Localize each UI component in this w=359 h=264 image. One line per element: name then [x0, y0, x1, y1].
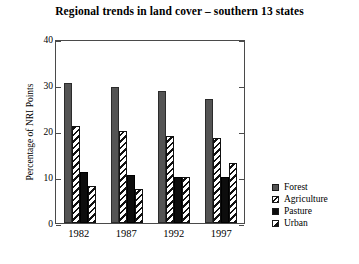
x-tick-label-1997: 1997 — [198, 228, 246, 239]
bar-group-1982 — [56, 41, 103, 223]
legend-swatch-urban-icon — [272, 220, 279, 227]
y-tick-label-30: 30 — [27, 81, 53, 91]
bar-urban-1987 — [135, 189, 143, 224]
bar-pasture-1987 — [127, 175, 135, 223]
y-tick-label-10: 10 — [27, 173, 53, 183]
legend-item-pasture: Pasture — [272, 207, 328, 217]
bar-forest-1982 — [64, 83, 72, 223]
bar-pasture-1982 — [80, 172, 88, 223]
y-tick-label-40: 40 — [27, 35, 53, 45]
y-axis-tick-labels: 010203040 — [27, 40, 53, 224]
bar-urban-1997 — [229, 163, 237, 223]
legend-item-urban: Urban — [272, 219, 328, 229]
x-tick-label-1992: 1992 — [150, 228, 198, 239]
bar-urban-1982 — [88, 186, 96, 223]
bar-forest-1987 — [111, 87, 119, 223]
bar-forest-1997 — [205, 99, 213, 223]
y-tick-label-0: 0 — [27, 219, 53, 229]
chart-title: Regional trends in land cover – southern… — [0, 5, 359, 17]
bar-groups — [56, 41, 244, 223]
bar-pasture-1992 — [174, 177, 182, 223]
bar-urban-1992 — [182, 177, 190, 223]
legend-swatch-forest-icon — [272, 184, 279, 191]
legend-label-pasture: Pasture — [284, 207, 312, 217]
y-axis-title-holder: Percentage of NRI Points — [8, 40, 26, 224]
bar-group-1987 — [103, 41, 150, 223]
bar-agriculture-1987 — [119, 131, 127, 223]
legend-label-agriculture: Agriculture — [284, 195, 328, 205]
legend-item-agriculture: Agriculture — [272, 195, 328, 205]
y-tick-0 — [56, 225, 61, 226]
plot-area — [55, 40, 245, 224]
legend-swatch-pasture-icon — [272, 208, 279, 215]
y-tick-label-20: 20 — [27, 127, 53, 137]
legend-item-forest: Forest — [272, 183, 328, 193]
bar-group-1992 — [150, 41, 197, 223]
x-axis-tick-labels: 1982198719921997 — [55, 228, 245, 239]
bar-group-1997 — [197, 41, 244, 223]
chart-container: Regional trends in land cover – southern… — [0, 0, 359, 264]
x-tick-label-1982: 1982 — [55, 228, 103, 239]
bar-agriculture-1992 — [166, 136, 174, 223]
bar-pasture-1997 — [221, 177, 229, 223]
legend-swatch-agriculture-icon — [272, 196, 279, 203]
y-tick-right-0 — [239, 225, 244, 226]
bar-agriculture-1997 — [213, 138, 221, 223]
legend-label-urban: Urban — [284, 219, 308, 229]
x-tick-label-1987: 1987 — [103, 228, 151, 239]
bar-agriculture-1982 — [72, 126, 80, 223]
bar-forest-1992 — [158, 91, 166, 223]
legend-label-forest: Forest — [284, 183, 308, 193]
chart-legend: ForestAgriculturePastureUrban — [272, 183, 328, 229]
